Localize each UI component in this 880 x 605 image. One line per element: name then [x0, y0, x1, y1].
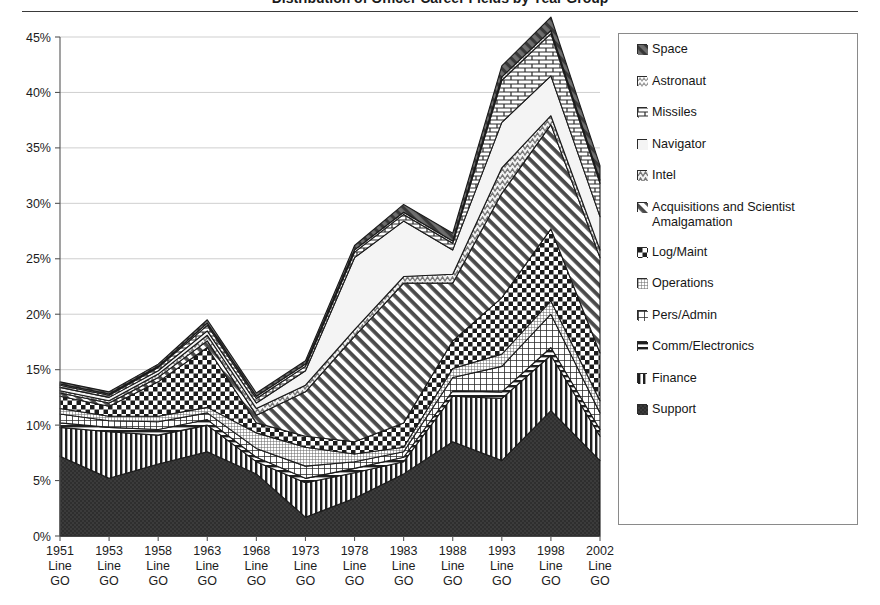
- y-axis-label: 30%: [26, 197, 51, 211]
- x-axis-label: 1988: [439, 544, 467, 558]
- x-axis-label: Line: [294, 559, 318, 573]
- x-axis-label: GO: [345, 574, 365, 588]
- legend-item-label: Navigator: [652, 137, 706, 152]
- legend-items: SpaceAstronautMissilesNavigatorIntelAcqu…: [637, 42, 851, 434]
- y-axis-label: 0%: [33, 530, 51, 544]
- y-axis-label: 40%: [26, 86, 51, 100]
- legend-swatch-icon: [637, 278, 647, 288]
- x-axis-label: Line: [195, 559, 219, 573]
- x-axis-label: Line: [48, 559, 72, 573]
- x-axis-label: Line: [97, 559, 121, 573]
- legend-item-label: Acquisitions and Scientist Amalgamation: [652, 200, 795, 230]
- legend-item[interactable]: Operations: [637, 276, 851, 291]
- legend-swatch-icon: [637, 247, 647, 257]
- legend-swatch-icon: [637, 76, 647, 86]
- x-axis: 1951LineGO1953LineGO1958LineGO1963LineGO…: [46, 536, 614, 588]
- legend-item-label: Support: [652, 402, 696, 417]
- x-axis-label: 1993: [488, 544, 516, 558]
- y-axis-label: 5%: [33, 474, 51, 488]
- area-series-group: [60, 17, 600, 536]
- x-axis-label: 1968: [242, 544, 270, 558]
- x-axis-label: Line: [490, 559, 514, 573]
- legend-item[interactable]: Space: [637, 42, 851, 57]
- x-axis-label: GO: [247, 574, 267, 588]
- x-axis-label: 2002: [586, 544, 614, 558]
- x-axis-label: Line: [392, 559, 416, 573]
- legend-item[interactable]: Finance: [637, 371, 851, 386]
- y-axis-label: 15%: [26, 363, 51, 377]
- x-axis-label: 1953: [95, 544, 123, 558]
- legend-item-label: Finance: [652, 371, 697, 386]
- legend-item-label: Pers/Admin: [652, 308, 717, 323]
- x-axis-label: GO: [50, 574, 70, 588]
- x-axis-label: Line: [441, 559, 465, 573]
- x-axis-label: GO: [394, 574, 414, 588]
- legend-item-label: Astronaut: [652, 74, 706, 89]
- legend-item[interactable]: Comm/Electronics: [637, 339, 851, 354]
- legend-item-label: Log/Maint: [652, 245, 707, 260]
- x-axis-label: GO: [296, 574, 316, 588]
- x-axis-label: GO: [590, 574, 610, 588]
- y-axis-label: 10%: [26, 419, 51, 433]
- x-axis-label: GO: [148, 574, 168, 588]
- legend-swatch-icon: [637, 44, 647, 54]
- x-axis-label: 1973: [292, 544, 320, 558]
- x-axis-label: GO: [443, 574, 463, 588]
- x-axis-label: GO: [492, 574, 512, 588]
- legend-item-label: Operations: [652, 276, 714, 291]
- y-axis-label: 20%: [26, 308, 51, 322]
- x-axis-label: GO: [99, 574, 119, 588]
- legend-item[interactable]: Missiles: [637, 105, 851, 120]
- x-axis-label: Line: [245, 559, 269, 573]
- x-axis-label: Line: [539, 559, 563, 573]
- legend-item-label: Intel: [652, 168, 676, 183]
- legend-item[interactable]: Support: [637, 402, 851, 417]
- x-axis-label: 1978: [341, 544, 369, 558]
- y-axis-label: 35%: [26, 141, 51, 155]
- x-axis-label: GO: [541, 574, 561, 588]
- legend-item[interactable]: Acquisitions and Scientist Amalgamation: [637, 200, 851, 230]
- legend-swatch-icon: [637, 107, 647, 117]
- legend-swatch-icon: [637, 139, 647, 149]
- legend-item[interactable]: Pers/Admin: [637, 308, 851, 323]
- x-axis-label: Line: [146, 559, 170, 573]
- legend-item-label: Comm/Electronics: [652, 339, 754, 354]
- legend-item[interactable]: Navigator: [637, 137, 851, 152]
- legend-item[interactable]: Intel: [637, 168, 851, 183]
- legend-item-label: Space: [652, 42, 688, 57]
- x-axis-label: 1958: [144, 544, 172, 558]
- y-axis-label: 25%: [26, 252, 51, 266]
- x-axis-label: Line: [588, 559, 612, 573]
- chart-page: Distribution of Officer Career Fields by…: [0, 0, 880, 605]
- x-axis-label: GO: [198, 574, 218, 588]
- legend-swatch-icon: [637, 170, 647, 180]
- legend-item[interactable]: Astronaut: [637, 74, 851, 89]
- x-axis-label: 1951: [46, 544, 74, 558]
- legend-swatch-icon: [637, 341, 647, 351]
- chart-legend[interactable]: SpaceAstronautMissilesNavigatorIntelAcqu…: [618, 33, 858, 525]
- x-axis-label: 1983: [390, 544, 418, 558]
- x-axis-label: 1998: [537, 544, 565, 558]
- y-axis-label: 45%: [26, 31, 51, 45]
- x-axis-label: Line: [343, 559, 367, 573]
- y-axis: 0%5%10%15%20%25%30%35%40%45%: [26, 31, 60, 544]
- legend-swatch-icon: [637, 310, 647, 320]
- legend-swatch-icon: [637, 404, 647, 414]
- legend-item-label: Missiles: [652, 105, 697, 120]
- legend-item[interactable]: Log/Maint: [637, 245, 851, 260]
- legend-swatch-icon: [637, 202, 647, 212]
- x-axis-label: 1963: [193, 544, 221, 558]
- legend-swatch-icon: [637, 373, 647, 383]
